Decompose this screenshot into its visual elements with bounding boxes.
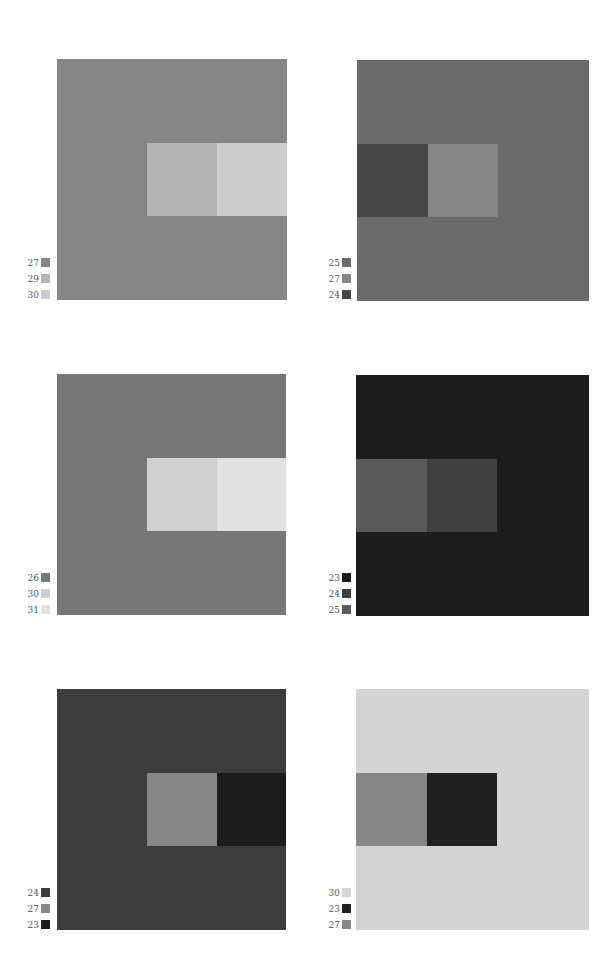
legend-swatch — [41, 888, 50, 897]
inner-patch-right — [217, 773, 286, 846]
legend: 24 27 23 — [10, 888, 50, 936]
legend-swatch — [41, 589, 50, 598]
legend-swatch — [342, 904, 351, 913]
legend-item: 24 — [311, 589, 351, 599]
legend-item: 23 — [311, 573, 351, 583]
legend-item: 27 — [10, 904, 50, 914]
legend-item: 23 — [10, 920, 50, 930]
legend-swatch — [342, 605, 351, 614]
legend-swatch — [342, 589, 351, 598]
legend-label: 30 — [28, 588, 39, 600]
legend-label: 26 — [28, 572, 39, 584]
legend-item: 31 — [10, 605, 50, 615]
legend-swatch — [41, 290, 50, 299]
background-square — [357, 60, 589, 301]
inner-patch-left — [147, 458, 217, 531]
background-square — [57, 59, 287, 300]
legend-swatch — [41, 904, 50, 913]
legend-label: 30 — [329, 887, 340, 899]
legend-swatch — [342, 573, 351, 582]
legend-label: 27 — [329, 919, 340, 931]
background-square — [57, 689, 286, 930]
legend-swatch — [342, 258, 351, 267]
inner-patch-left — [147, 773, 217, 846]
legend-label: 25 — [329, 604, 340, 616]
legend-swatch — [342, 290, 351, 299]
legend-item: 30 — [10, 589, 50, 599]
legend: 23 24 25 — [311, 573, 351, 621]
inner-patch-left — [356, 459, 427, 532]
legend-swatch — [41, 258, 50, 267]
legend-item: 23 — [311, 904, 351, 914]
legend: 27 29 30 — [10, 258, 50, 306]
legend-item: 24 — [311, 290, 351, 300]
legend-swatch — [342, 274, 351, 283]
legend-item: 26 — [10, 573, 50, 583]
legend-item: 29 — [10, 274, 50, 284]
inner-patch-right — [427, 459, 497, 532]
legend-label: 23 — [329, 572, 340, 584]
inner-patch-left — [147, 143, 217, 216]
legend-item: 27 — [311, 274, 351, 284]
inner-patch-right — [217, 458, 286, 531]
inner-patch-right — [217, 143, 287, 216]
legend-swatch — [41, 605, 50, 614]
legend-label: 30 — [28, 289, 39, 301]
inner-patch-right — [428, 144, 498, 217]
legend-label: 25 — [329, 257, 340, 269]
legend-item: 27 — [10, 258, 50, 268]
legend-swatch — [41, 274, 50, 283]
legend-swatch — [41, 920, 50, 929]
legend-label: 27 — [28, 903, 39, 915]
legend-label: 27 — [329, 273, 340, 285]
legend-label: 24 — [329, 588, 340, 600]
legend-label: 27 — [28, 257, 39, 269]
legend-item: 25 — [311, 258, 351, 268]
legend-label: 24 — [28, 887, 39, 899]
background-square — [356, 375, 589, 616]
background-square — [57, 374, 286, 615]
legend-swatch — [41, 573, 50, 582]
legend-label: 24 — [329, 289, 340, 301]
legend-item: 24 — [10, 888, 50, 898]
legend-item: 30 — [311, 888, 351, 898]
legend-item: 25 — [311, 605, 351, 615]
background-square — [356, 689, 589, 930]
legend-label: 29 — [28, 273, 39, 285]
legend-item: 27 — [311, 920, 351, 930]
legend: 25 27 24 — [311, 258, 351, 306]
legend: 30 23 27 — [311, 888, 351, 936]
legend-label: 23 — [28, 919, 39, 931]
legend-swatch — [342, 920, 351, 929]
inner-patch-left — [356, 773, 427, 846]
legend: 26 30 31 — [10, 573, 50, 621]
inner-patch-left — [357, 144, 428, 217]
legend-item: 30 — [10, 290, 50, 300]
legend-label: 31 — [28, 604, 39, 616]
legend-swatch — [342, 888, 351, 897]
inner-patch-right — [427, 773, 497, 846]
legend-label: 23 — [329, 903, 340, 915]
